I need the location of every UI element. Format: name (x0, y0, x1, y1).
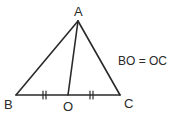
label-a: A (74, 4, 83, 19)
label-c: C (124, 96, 133, 111)
label-b: B (4, 97, 13, 112)
triangle-diagram: A B O C BO = OC (0, 0, 173, 113)
segment-ac (78, 21, 120, 95)
equality-annotation: BO = OC (118, 54, 167, 68)
label-o: O (63, 99, 73, 113)
